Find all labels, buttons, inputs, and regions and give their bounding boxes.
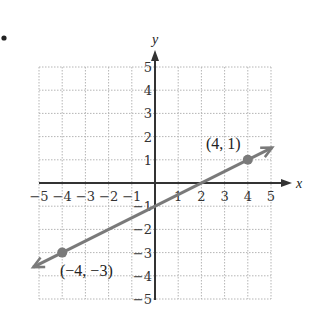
- data-line: [33, 148, 272, 267]
- x-tick-labels: −5−4−3−2−112345: [29, 189, 275, 204]
- point-label-4-1: (4, 1): [206, 135, 241, 153]
- x-axis-arrow-icon: [281, 179, 292, 187]
- x-tick-label: −5: [29, 189, 48, 204]
- coordinate-plane: x y −5−4−3−2−112345 54321−1−2−3−4−5 (4, …: [0, 0, 309, 313]
- x-tick-label: 5: [267, 189, 275, 204]
- y-axis-label: y: [150, 32, 159, 47]
- data-point: [57, 248, 67, 258]
- y-tick-label: −5: [133, 292, 152, 307]
- bullet-marker: [1, 35, 6, 40]
- x-tick-label: 3: [220, 189, 228, 204]
- y-tick-label: 5: [144, 60, 152, 75]
- point-label-neg4-neg3: (−4, −3): [60, 262, 113, 280]
- y-axis-arrow-icon: [151, 50, 159, 61]
- y-tick-label: −2: [133, 222, 152, 237]
- y-tick-label: 3: [144, 106, 152, 121]
- x-axis: [39, 179, 292, 187]
- x-tick-label: −2: [99, 189, 118, 204]
- x-axis-label: x: [295, 176, 303, 191]
- y-axis: [151, 50, 159, 300]
- y-tick-label: −4: [133, 269, 152, 284]
- y-tick-label: −3: [133, 246, 152, 261]
- y-tick-label: 4: [144, 83, 152, 98]
- x-tick-label: 2: [197, 189, 205, 204]
- y-tick-label: 2: [144, 130, 152, 145]
- y-tick-label: 1: [144, 153, 152, 168]
- data-point: [243, 155, 253, 165]
- x-tick-label: −3: [76, 189, 95, 204]
- x-tick-label: 4: [244, 189, 252, 204]
- x-tick-label: −4: [53, 189, 72, 204]
